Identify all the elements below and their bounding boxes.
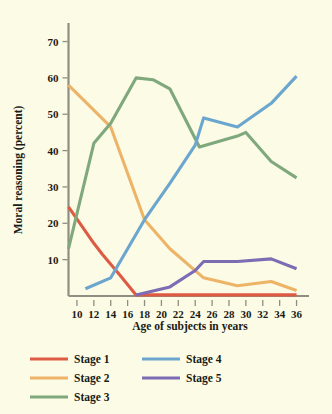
x-tick-label: 32	[257, 308, 269, 320]
x-tick-label: 16	[122, 308, 134, 320]
x-tick-label: 20	[156, 308, 168, 320]
y-tick-label: 30	[48, 181, 60, 193]
x-tick-label: 12	[88, 308, 100, 320]
y-tick-label: 40	[48, 145, 60, 157]
y-tick-label: 70	[48, 36, 60, 48]
x-tick-label: 24	[190, 308, 202, 320]
x-tick-label: 26	[207, 308, 219, 320]
x-tick-label: 10	[71, 308, 83, 320]
x-tick-label: 30	[240, 308, 252, 320]
x-tick-label: 28	[223, 308, 235, 320]
y-tick-label: 10	[48, 254, 60, 266]
x-tick-label: 14	[105, 308, 117, 320]
x-tick-label: 36	[291, 308, 303, 320]
legend-label: Stage 5	[186, 372, 222, 385]
moral-reasoning-line-chart: Moral reasoning (percent) 10203040506070…	[0, 0, 332, 414]
y-tick-label: 20	[48, 217, 60, 229]
chart-background	[0, 0, 332, 414]
y-axis-title: Moral reasoning (percent)	[12, 106, 25, 235]
x-tick-label: 18	[139, 308, 151, 320]
chart-figure: Moral reasoning (percent) 10203040506070…	[0, 0, 332, 414]
legend-label: Stage 3	[74, 391, 110, 404]
x-tick-label: 34	[274, 308, 286, 320]
x-axis-title: Age of subjects in years	[132, 320, 248, 333]
legend-label: Stage 2	[74, 372, 110, 385]
y-tick-label: 50	[48, 108, 60, 120]
legend-label: Stage 1	[74, 353, 110, 366]
x-tick-label: 22	[173, 308, 185, 320]
y-tick-label: 60	[48, 72, 60, 84]
legend-label: Stage 4	[186, 353, 222, 366]
